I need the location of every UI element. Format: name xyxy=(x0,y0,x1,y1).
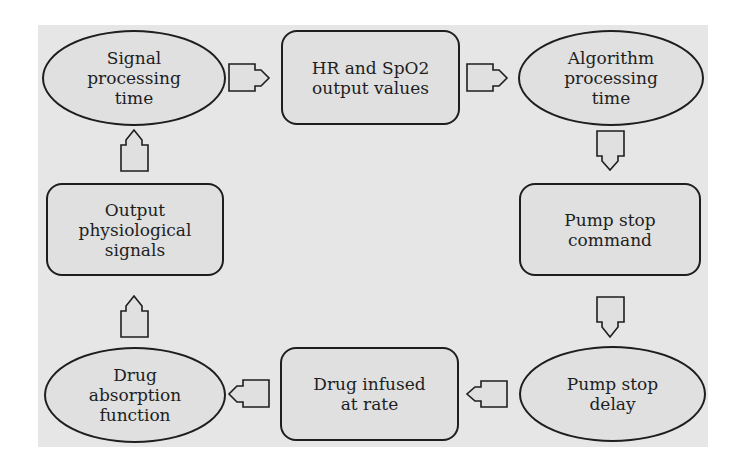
arrow-right-icon xyxy=(229,64,269,91)
arrow-down-icon xyxy=(597,297,624,337)
arrow-left-icon xyxy=(229,380,269,407)
arrow-up-icon xyxy=(121,130,148,171)
arrow-right-icon xyxy=(467,64,507,91)
arrow-left-icon xyxy=(467,381,507,407)
arrows-layer xyxy=(0,0,740,469)
arrow-down-icon xyxy=(597,131,624,170)
arrow-up-icon xyxy=(121,296,148,337)
